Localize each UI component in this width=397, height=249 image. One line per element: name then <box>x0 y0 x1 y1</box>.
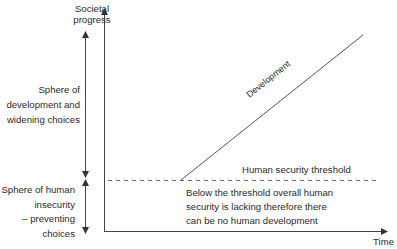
below-threshold-note-line: Below the threshold overall human <box>186 186 333 200</box>
lower-sphere-label-line: insecurity <box>1 198 75 213</box>
y-axis-label-line: Societal <box>62 3 122 14</box>
below-threshold-note-line: can be no human development <box>186 214 333 228</box>
threshold-label: Human security threshold <box>242 163 351 176</box>
arrow-down-icon <box>82 227 89 234</box>
upper-sphere-label: Sphere of development and widening choic… <box>6 82 80 127</box>
lower-sphere-label-line: choices <box>1 227 75 242</box>
lower-sphere-label: Sphere of human insecurity – preventing … <box>1 183 75 241</box>
upper-sphere-label-line: development and <box>6 97 80 112</box>
lower-sphere-label-line: – preventing <box>1 212 75 227</box>
below-threshold-note-line: security is lacking therefore there <box>186 200 333 214</box>
upper-sphere-bracket <box>82 31 89 178</box>
lower-sphere-bracket <box>82 179 89 234</box>
x-axis-label: Time <box>373 235 394 248</box>
arrow-down-icon <box>82 171 89 178</box>
upper-sphere-label-line: Sphere of <box>6 82 80 97</box>
x-axis <box>105 228 389 235</box>
below-threshold-note: Below the threshold overall human securi… <box>186 186 333 228</box>
arrow-up-icon <box>82 179 89 186</box>
y-axis-label-line: progress <box>62 14 122 25</box>
development-line <box>181 35 363 180</box>
lower-sphere-label-line: Sphere of human <box>1 183 75 198</box>
upper-sphere-label-line: widening choices <box>6 112 80 127</box>
arrow-up-icon <box>82 31 89 38</box>
y-axis <box>101 8 108 232</box>
y-axis-label: Societal progress <box>62 3 122 25</box>
x-axis-arrow-icon <box>381 228 388 235</box>
